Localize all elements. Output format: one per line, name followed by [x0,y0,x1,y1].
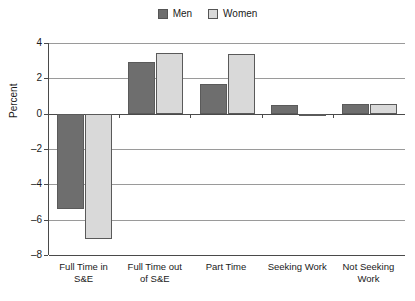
bar-men-1 [128,62,155,113]
bar-women-1 [156,53,183,114]
x-category-label-1: Full Time out of S&E [119,261,190,285]
x-category-label-3: Seeking Work [262,261,333,273]
bar-men-4 [342,104,369,114]
y-tick-mark--8 [44,255,48,256]
y-tick-label--2: –2 [22,144,42,154]
bar-men-3 [271,105,298,114]
chart-legend: Men Women [0,8,415,19]
bar-women-0 [85,114,112,239]
y-axis-label: Percent [8,84,19,118]
x-category-label-0: Full Time in S&E [48,261,119,285]
y-tick-label--4: –4 [22,179,42,189]
x-tick-mark-1 [119,114,120,118]
gridline--8 [49,255,405,256]
bar-women-2 [228,54,255,114]
legend-entry-women: Women [208,8,257,19]
legend-label-women: Women [223,8,257,19]
bar-men-2 [200,84,227,114]
bar-men-0 [57,114,84,209]
bar-chart: Men Women Percent 420–2–4–6–8 Full Time … [0,0,415,301]
y-tick-label-0: 0 [22,109,42,119]
x-category-label-4: Not Seeking Work [333,261,404,285]
y-tick-label-4: 4 [22,38,42,48]
bar-women-4 [370,104,397,114]
plot-area [48,43,405,255]
gridline-4 [49,43,405,44]
x-tick-mark-4 [333,114,334,118]
y-tick-label--6: –6 [22,215,42,225]
x-tick-mark-3 [262,114,263,118]
y-tick-label-2: 2 [22,73,42,83]
x-tick-mark-2 [190,114,191,118]
x-category-label-2: Part Time [190,261,261,273]
y-tick-label--8: –8 [22,250,42,260]
men-swatch-icon [158,9,168,19]
women-swatch-icon [208,9,218,19]
legend-label-men: Men [173,8,192,19]
legend-entry-men: Men [158,8,192,19]
bar-women-3 [299,114,326,116]
